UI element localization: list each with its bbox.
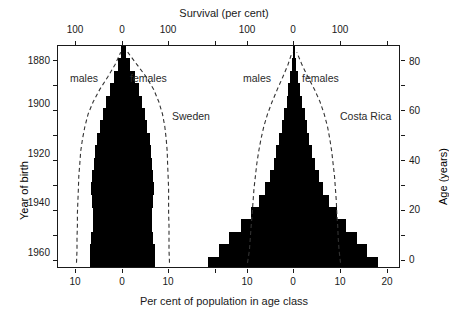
right-tick-label-80: 80 xyxy=(409,57,420,67)
right-tick-mark xyxy=(401,160,405,161)
top-tick-label-sweden-males-100: 100 xyxy=(67,25,84,35)
bottom-tick-mark xyxy=(340,269,341,273)
population-pyramid-figure: Survival (per cent) 100 0 100 100 0 100 … xyxy=(0,0,449,317)
left-tick-label-1900: 1900 xyxy=(28,99,50,109)
bottom-tick-mark xyxy=(122,269,123,273)
bottom-tick-mark xyxy=(247,269,248,273)
bottom-tick-label-costarica-20: 20 xyxy=(381,277,392,287)
right-tick-label-60: 60 xyxy=(409,106,420,116)
bottom-tick-mark xyxy=(168,269,169,273)
plot-area xyxy=(57,45,400,268)
sweden-annotation: Sweden xyxy=(172,110,210,122)
bottom-tick-label-costarica-10L: 10 xyxy=(241,277,252,287)
bottom-tick-mark xyxy=(293,269,294,273)
right-tick-mark xyxy=(401,235,405,236)
bottom-tick-label-costarica-10R: 10 xyxy=(334,277,345,287)
right-tick-mark xyxy=(401,60,405,61)
bottom-tick-label-costarica-0: 0 xyxy=(290,277,296,287)
right-tick-mark xyxy=(401,210,405,211)
costarica-females-label: females xyxy=(302,72,339,84)
right-axis-title: Age (years) xyxy=(437,148,449,205)
right-tick-label-20: 20 xyxy=(409,205,420,215)
sweden-males-label: males xyxy=(70,72,98,84)
sweden-females-label: females xyxy=(130,72,167,84)
right-tick-mark xyxy=(401,85,405,86)
top-tick-label-sweden-females-100: 100 xyxy=(160,25,177,35)
bottom-tick-mark xyxy=(387,269,388,273)
bottom-tick-mark xyxy=(75,269,76,273)
bottom-tick-mark xyxy=(215,269,216,273)
bottom-tick-label-sweden-10R: 10 xyxy=(162,277,173,287)
top-tick-label-costarica-males-100: 100 xyxy=(239,25,256,35)
left-tick-label-1960: 1960 xyxy=(28,248,50,258)
left-tick-label-1880: 1880 xyxy=(28,56,50,66)
left-axis-title: Year of birth xyxy=(18,161,30,220)
costarica-annotation: Costa Rica xyxy=(340,110,391,122)
right-tick-mark xyxy=(401,135,405,136)
bottom-tick-label-sweden-0: 0 xyxy=(119,277,125,287)
right-tick-mark xyxy=(401,110,405,111)
costarica-males-label: males xyxy=(243,72,271,84)
survival-curves-layer xyxy=(58,46,400,268)
right-tick-label-0: 0 xyxy=(409,255,415,265)
left-tick-label-1940: 1940 xyxy=(28,198,50,208)
top-tick-label-sweden-zero: 0 xyxy=(119,25,125,35)
bottom-axis-title: Per cent of population in age class xyxy=(140,296,308,306)
right-tick-label-40: 40 xyxy=(409,156,420,166)
right-tick-mark xyxy=(401,185,405,186)
bottom-tick-label-sweden-10L: 10 xyxy=(69,277,80,287)
left-tick-label-1920: 1920 xyxy=(28,149,50,159)
right-tick-mark xyxy=(401,260,405,261)
top-axis-title: Survival (per cent) xyxy=(179,8,268,18)
top-tick-label-costarica-females-100: 100 xyxy=(332,25,349,35)
top-tick-label-costarica-zero: 0 xyxy=(290,25,296,35)
